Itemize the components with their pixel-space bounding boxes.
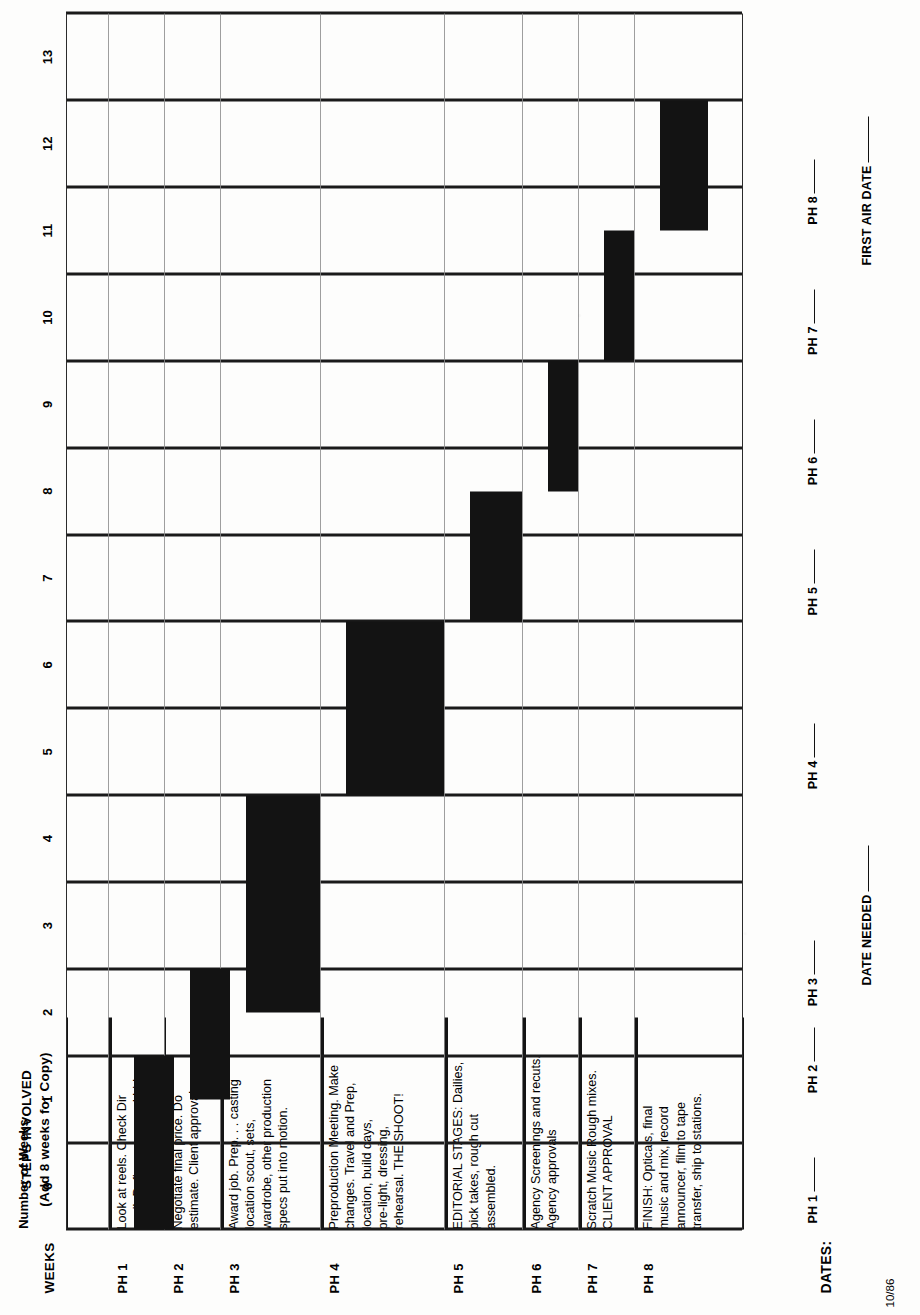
dates-row-label: DATES:	[818, 1240, 834, 1293]
date-blank-ph-7[interactable]: PH 7	[806, 289, 820, 355]
grid-hline-1	[108, 13, 109, 1229]
date-blank-rule[interactable]	[814, 940, 815, 974]
grid-vline-week-9	[66, 446, 742, 449]
date-needed-text: DATE NEEDED	[860, 894, 874, 985]
date-blank-rule[interactable]	[814, 1027, 815, 1061]
date-blank-label: PH 6	[806, 456, 820, 485]
date-blank-ph-1[interactable]: PH 1	[806, 1157, 820, 1223]
grid-hline-2	[164, 13, 165, 1229]
week-tick-3: 3	[40, 909, 55, 941]
week-tick-2: 2	[40, 996, 55, 1028]
date-blank-ph-5[interactable]: PH 5	[806, 549, 820, 615]
date-blank-rule[interactable]	[814, 549, 815, 583]
date-blank-label: PH 8	[806, 196, 820, 225]
weeks-column-header: WEEKS	[42, 1242, 57, 1293]
grid-hline-5	[444, 13, 445, 1229]
grid-vline-week-8	[66, 533, 742, 536]
date-blank-rule[interactable]	[814, 289, 815, 323]
grid-vline-week-10	[66, 359, 742, 362]
week-tick-8: 8	[40, 475, 55, 507]
chart-grid	[66, 0, 742, 1315]
date-needed-label: DATE NEEDED	[860, 845, 874, 985]
gantt-bar-ph-5	[470, 491, 522, 621]
gantt-bar-ph-6	[548, 360, 578, 490]
gantt-bar-ph-2	[190, 968, 230, 1098]
date-blank-label: PH 1	[806, 1194, 820, 1223]
date-blank-label: PH 7	[806, 326, 820, 355]
grid-vline-week-13	[66, 98, 742, 101]
week-tick-6: 6	[40, 648, 55, 680]
week-tick-11: 11	[40, 214, 55, 246]
scanned-page: WEEKS STEPS INVOLVED (Add 8 weeks for Co…	[0, 0, 920, 1315]
gantt-bar-ph-8	[660, 100, 708, 230]
grid-vline-week-11	[66, 272, 742, 275]
week-tick-10: 10	[40, 301, 55, 333]
date-blank-ph-8[interactable]: PH 8	[806, 159, 820, 225]
grid-vline-week-4	[66, 880, 742, 883]
date-blank-rule[interactable]	[814, 159, 815, 193]
date-blank-label: PH 4	[806, 760, 820, 789]
grid-vline-week-3	[66, 967, 742, 970]
revision-stamp: 10/86	[884, 1278, 896, 1307]
week-tick-5: 5	[40, 735, 55, 767]
grid-vline-week-14	[66, 11, 742, 15]
steps-column-header-line2: (Add 8 weeks for Copy)	[36, 1023, 54, 1235]
date-blank-rule[interactable]	[814, 419, 815, 453]
week-tick-4: 4	[40, 822, 55, 854]
week-tick-9: 9	[40, 388, 55, 420]
date-blank-ph-3[interactable]: PH 3	[806, 940, 820, 1006]
date-blank-label: PH 5	[806, 586, 820, 615]
gantt-bar-ph-1	[134, 1055, 174, 1229]
gantt-bar-ph-3	[246, 795, 320, 1012]
week-tick-0: 0	[40, 1170, 55, 1202]
grid-hline-8	[634, 13, 635, 1229]
week-tick-7: 7	[40, 562, 55, 594]
week-tick-13: 13	[40, 40, 55, 72]
first-air-date-blank[interactable]	[868, 116, 869, 162]
week-tick-1: 1	[40, 1083, 55, 1115]
gantt-bar-ph-7	[604, 230, 634, 360]
grid-hline-9	[742, 13, 743, 1229]
week-tick-12: 12	[40, 127, 55, 159]
date-blank-rule[interactable]	[814, 1157, 815, 1191]
grid-hline-0	[66, 13, 67, 1229]
grid-vline-week-12	[66, 185, 742, 188]
gantt-sheet: WEEKS STEPS INVOLVED (Add 8 weeks for Co…	[0, 0, 920, 1315]
gantt-bar-ph-4	[346, 621, 444, 795]
first-air-date-label: FIRST AIR DATE	[860, 116, 874, 265]
date-needed-blank[interactable]	[868, 845, 869, 891]
grid-hline-6	[522, 13, 523, 1229]
date-blank-ph-4[interactable]: PH 4	[806, 723, 820, 789]
date-blank-ph-2[interactable]: PH 2	[806, 1027, 820, 1093]
first-air-date-text: FIRST AIR DATE	[860, 165, 874, 265]
date-blank-rule[interactable]	[814, 723, 815, 757]
grid-hline-4	[320, 13, 321, 1229]
grid-hline-7	[578, 13, 579, 1229]
date-blank-label: PH 3	[806, 977, 820, 1006]
date-blank-label: PH 2	[806, 1064, 820, 1093]
date-blank-ph-6[interactable]: PH 6	[806, 419, 820, 485]
axis-caption: Number of Weeks	[16, 1119, 31, 1229]
